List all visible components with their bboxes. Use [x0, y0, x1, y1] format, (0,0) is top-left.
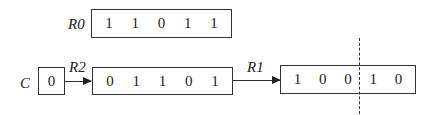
r2-label: R2: [69, 59, 86, 75]
r0-bit: 1: [175, 15, 201, 32]
r1-label: R1: [247, 59, 264, 75]
r0-label: R0: [68, 16, 85, 32]
r0-bit: 0: [148, 15, 174, 32]
arrow-c-to-r2: [65, 81, 91, 82]
r1-bit: 1: [361, 71, 386, 88]
c-bit: 0: [39, 73, 64, 90]
r2-bit: 1: [123, 73, 149, 90]
r0-bit: 1: [96, 15, 122, 32]
r0-bit: 1: [201, 15, 227, 32]
r2-register: 0 1 1 0 1: [92, 67, 233, 95]
r1-bit: 0: [386, 71, 411, 88]
split-dashed-line: [359, 38, 360, 114]
r2-bit: 1: [149, 73, 175, 90]
r2-bit: 0: [97, 73, 123, 90]
r1-register: 1 0 0 1 0: [280, 65, 416, 94]
c-label: C: [20, 75, 30, 91]
r1-bit: 0: [310, 71, 335, 88]
r0-bit: 1: [122, 15, 148, 32]
r2-bit: 0: [176, 73, 202, 90]
arrow-r2-to-r1: [233, 80, 280, 81]
r1-bit: 0: [335, 71, 360, 88]
r0-register: 1 1 0 1 1: [91, 9, 232, 38]
r2-bit: 1: [202, 73, 228, 90]
c-register: 0: [38, 67, 65, 95]
r1-bit: 1: [285, 71, 310, 88]
